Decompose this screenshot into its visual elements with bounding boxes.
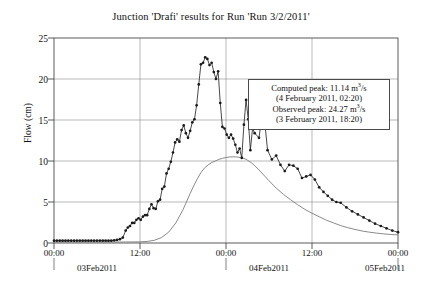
- grid-lines: [54, 38, 398, 243]
- observed-peak-text: Observed peak: 24.27 m: [273, 104, 357, 114]
- observed-peak-unit-tail: /s: [360, 104, 366, 114]
- observed-peak-time: (3 February 2011, 18:20): [253, 114, 385, 124]
- computed-peak-unit-tail: /s: [361, 83, 367, 93]
- plot-area: [0, 0, 422, 287]
- observed-peak-line: Observed peak: 24.27 m3/s: [253, 104, 385, 114]
- x-axis-ticks: [54, 243, 398, 249]
- computed-peak-time: (4 February 2011, 02:20): [253, 93, 385, 103]
- y-axis-ticks: [48, 38, 54, 243]
- chart-figure: Junction 'Drafi' results for Run 'Run 3/…: [0, 0, 422, 287]
- x-axis-date-ticks: [54, 258, 398, 270]
- peak-annotation-box: Computed peak: 11.14 m3/s (4 February 20…: [248, 79, 390, 130]
- computed-peak-line: Computed peak: 11.14 m3/s: [253, 83, 385, 93]
- computed-peak-text: Computed peak: 11.14 m: [271, 83, 358, 93]
